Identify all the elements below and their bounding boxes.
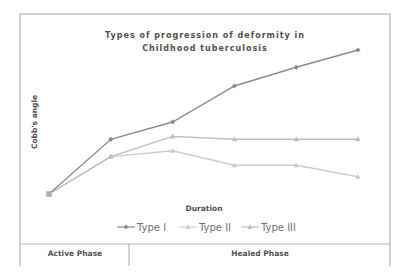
legend-item-type-i: Type I bbox=[117, 222, 166, 233]
x-axis-title: Duration bbox=[186, 204, 223, 213]
line-type-ii bbox=[49, 151, 358, 194]
legend-item-type-ii: Type II bbox=[179, 222, 231, 233]
phase-label-healed: Healed Phase bbox=[231, 249, 289, 258]
data-point-type-i bbox=[355, 47, 360, 52]
y-axis-title: Cobb's angle bbox=[30, 95, 39, 149]
gridlines bbox=[40, 122, 372, 158]
legend-label-type-iii: Type III bbox=[260, 222, 296, 233]
legend: Type I Type II Type III bbox=[117, 222, 296, 233]
diamond-marker-icon bbox=[124, 225, 129, 230]
legend-label-type-ii: Type II bbox=[198, 222, 231, 233]
legend-item-type-iii: Type III bbox=[241, 222, 296, 233]
line-type-iii bbox=[49, 136, 358, 194]
chart-title-line-2: Childhood tuberculosis bbox=[142, 44, 268, 53]
series-type-iii bbox=[47, 134, 361, 197]
chart-title-line-1: Types of progression of deformity in bbox=[105, 31, 305, 40]
chart: Types of progression of deformity in Chi… bbox=[0, 0, 408, 280]
data-point-type-i bbox=[47, 192, 52, 197]
data-point-type-i bbox=[294, 65, 299, 70]
legend-label-type-i: Type I bbox=[136, 222, 166, 233]
line-type-i bbox=[49, 50, 358, 194]
phase-label-active: Active Phase bbox=[48, 249, 102, 258]
